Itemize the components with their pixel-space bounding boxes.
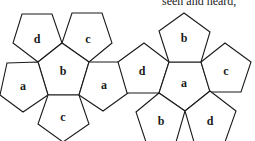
face-label: c (60, 110, 66, 124)
pentagon-face-left-c-bottom: c (38, 95, 89, 141)
dodecahedron-net-diagram: dcbacadabcbd (0, 0, 255, 141)
face-label: d (34, 32, 41, 46)
face-label: a (181, 76, 187, 90)
face-label: a (20, 79, 26, 93)
face-label: b (181, 31, 188, 45)
face-label: c (85, 32, 91, 46)
face-label: d (139, 64, 146, 78)
face-label: d (207, 114, 214, 128)
face-label: b (60, 64, 67, 78)
pentagon-face-left-a: a (0, 62, 48, 112)
pentagon-face-right-c: c (201, 43, 251, 92)
face-label: c (223, 64, 229, 78)
pentagon-face-right-b-top: b (159, 13, 210, 62)
face-label: b (158, 114, 165, 128)
face-label: a (101, 78, 107, 92)
